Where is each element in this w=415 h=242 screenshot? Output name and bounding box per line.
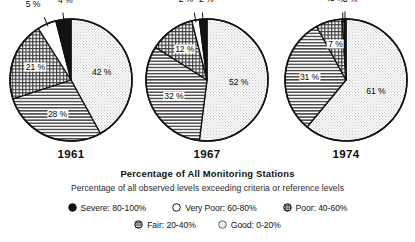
slice-label-1961-severe: 4 %: [58, 0, 73, 5]
slice-label-1967-fair: 32 %: [163, 91, 184, 100]
slice-label-1961-fair: 28 %: [47, 110, 68, 119]
pie-chart-1967: 52 %32 %12 %2 %2 %1967: [138, 0, 276, 170]
slice-label-1967-severe: 2 %: [199, 0, 214, 4]
legend-item-poor[interactable]: Poor: 40-60%: [283, 203, 348, 213]
crosshatch-circle-icon: [283, 203, 292, 212]
legend-item-very_poor[interactable]: Very Poor: 60-80%: [172, 203, 256, 213]
pie-chart-1974: 61 %31 %7 %.5 %.5 %1974: [277, 0, 415, 170]
pie-year-label-1961: 1961: [2, 148, 140, 160]
pie-svg-1961: [5, 14, 137, 146]
pie-year-label-1974: 1974: [277, 148, 415, 160]
slice-label-1967-very_poor: 2 %: [179, 0, 194, 4]
pie-chart-figure: 42 %28 %21 %5 %4 %196152 %32 %12 %2 %2 %…: [0, 0, 415, 242]
legend-label-fair: Fair: 20-40%: [147, 220, 196, 230]
slice-label-1961-very_poor: 5 %: [26, 0, 41, 9]
slice-label-1967-poor: 12 %: [174, 45, 195, 54]
horizontal-lines-circle-icon: [134, 220, 143, 229]
legend-item-severe[interactable]: Severe: 80-100%: [68, 203, 147, 213]
legend-label-good: Good: 0-20%: [231, 220, 281, 230]
slice-label-1974-poor: 7 %: [327, 39, 344, 48]
legend-label-very_poor: Very Poor: 60-80%: [185, 203, 256, 213]
slice-label-1961-poor: 21 %: [25, 63, 46, 72]
legend: Severe: 80-100%Very Poor: 60-80%Poor: 40…: [0, 199, 415, 233]
legend-row-1: Severe: 80-100%Very Poor: 60-80%Poor: 40…: [0, 199, 415, 216]
solid-black-circle-icon: [68, 203, 77, 212]
chart-title: Percentage of All Monitoring Stations: [0, 168, 415, 179]
legend-row-2: Fair: 20-40%Good: 0-20%: [0, 216, 415, 233]
chart-subtitle: Percentage of all observed levels exceed…: [0, 183, 415, 193]
slice-label-1974-severe: .5 %: [340, 0, 357, 4]
pie-year-label-1967: 1967: [138, 148, 276, 160]
open-white-circle-icon: [172, 203, 181, 212]
legend-item-fair[interactable]: Fair: 20-40%: [134, 220, 196, 230]
pie-svg-1967: [141, 14, 273, 146]
slice-label-1967-good: 52 %: [229, 77, 248, 87]
pie-row: 42 %28 %21 %5 %4 %196152 %32 %12 %2 %2 %…: [0, 0, 415, 170]
legend-label-poor: Poor: 40-60%: [296, 203, 348, 213]
pie-chart-1961: 42 %28 %21 %5 %4 %1961: [2, 0, 140, 170]
dotted-light-circle-icon: [218, 220, 227, 229]
slice-label-1974-fair: 31 %: [299, 72, 320, 81]
legend-label-severe: Severe: 80-100%: [81, 203, 147, 213]
slice-label-1974-good: 61 %: [366, 86, 385, 96]
slice-label-1961-good: 42 %: [92, 67, 111, 77]
legend-item-good[interactable]: Good: 0-20%: [218, 220, 281, 230]
